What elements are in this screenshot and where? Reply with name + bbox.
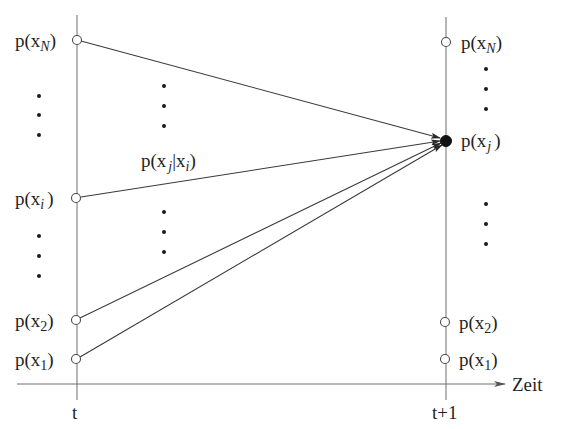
svg-text:p(xj|xi): p(xj|xi)	[141, 150, 196, 174]
open-node-icon	[441, 355, 450, 364]
edge-xN-to-xj	[81, 41, 440, 138]
middle-ellipsis-lower	[162, 210, 166, 254]
left-node-x2: p(x2)	[15, 310, 81, 334]
right-node-xN: p(xN)	[442, 32, 503, 56]
tick-label-t: t	[72, 402, 78, 423]
middle-ellipsis-upper	[162, 84, 166, 128]
transition-label-close: )	[189, 150, 195, 172]
open-node-icon	[73, 36, 82, 45]
svg-text:p(xj): p(xj)	[461, 130, 501, 154]
right-node-x1: p(x1)	[441, 349, 498, 373]
markov-transition-diagram: Zeit t t+1 p(xj|xi) p(xN) p(xi) p(x2) p(…	[0, 0, 563, 429]
open-node-icon	[441, 318, 450, 327]
left-node-x1: p(x1)	[15, 349, 81, 373]
filled-node-icon	[441, 136, 452, 147]
svg-text:p(x2): p(x2)	[459, 312, 498, 336]
right-node-xj: p(xj)	[441, 130, 501, 154]
edge-x1-to-xj	[80, 145, 442, 357]
transition-label-sep: |x	[172, 150, 186, 171]
transition-label-base: p(x	[141, 150, 167, 172]
left-node-xi: p(xi)	[15, 188, 81, 212]
left-node-xN: p(xN)	[15, 30, 82, 54]
svg-text:p(xN): p(xN)	[461, 32, 502, 56]
open-node-icon	[72, 355, 81, 364]
time-axis-label: Zeit	[512, 374, 543, 395]
svg-text:p(x2): p(x2)	[15, 310, 54, 334]
svg-text:p(x1): p(x1)	[459, 349, 498, 373]
right-ellipsis-lower	[484, 202, 488, 246]
right-node-x2: p(x2)	[441, 312, 498, 336]
svg-text:p(x1): p(x1)	[15, 349, 54, 373]
open-node-icon	[72, 194, 81, 203]
tick-label-t-plus-1: t+1	[432, 402, 458, 423]
right-ellipsis-upper	[484, 67, 488, 111]
svg-text:p(xN): p(xN)	[15, 30, 56, 54]
open-node-icon	[442, 38, 451, 47]
transition-probability-label: p(xj|xi)	[141, 150, 196, 174]
open-node-icon	[72, 316, 81, 325]
svg-text:p(xi): p(xi)	[15, 188, 54, 212]
left-ellipsis-upper	[37, 94, 41, 137]
left-ellipsis-lower	[37, 234, 41, 278]
